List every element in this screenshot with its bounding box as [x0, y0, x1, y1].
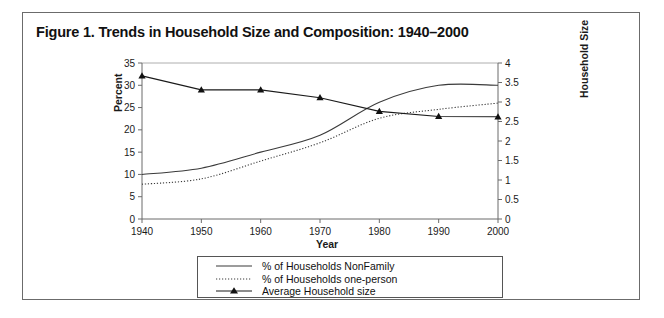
y-left-tick-label: 35 — [124, 58, 136, 69]
y-left-tick-label: 5 — [129, 191, 135, 202]
y-right-tick-label: 3 — [505, 97, 511, 108]
legend-label-household-size: Average Household size — [262, 285, 376, 297]
figure-container: Figure 1. Trends in Household Size and C… — [0, 0, 664, 318]
y-right-tick-label: 1 — [505, 175, 511, 186]
chart-legend: % of Households NonFamily % of Household… — [197, 256, 503, 298]
y-left-tick-label: 10 — [124, 169, 136, 180]
y-left-tick-label: 30 — [124, 80, 136, 91]
y-axis-right-title: Household Size — [578, 20, 590, 98]
dotted-line-key-icon — [212, 273, 256, 285]
y-right-tick-label: 2 — [505, 136, 511, 147]
y-right-tick-label: 0.5 — [505, 194, 519, 205]
series-2 — [142, 103, 498, 184]
data-point-marker — [138, 72, 145, 78]
legend-item-one-person: % of Households one-person — [212, 273, 502, 286]
legend-item-nonfamily: % of Households NonFamily — [212, 260, 502, 273]
series-3 — [138, 72, 501, 119]
y-right-tick-label: 2.5 — [505, 116, 519, 127]
y-right-tick-label: 3.5 — [505, 77, 519, 88]
x-tick-label: 1940 — [131, 226, 154, 237]
x-tick-label: 1960 — [250, 226, 273, 237]
y-left-tick-label: 15 — [124, 147, 136, 158]
y-right-tick-label: 1.5 — [505, 155, 519, 166]
legend-item-household-size: Average Household size — [212, 285, 502, 298]
x-tick-label: 1980 — [368, 226, 391, 237]
chart-canvas: 0510152025303500.511.522.533.54194019501… — [110, 55, 530, 255]
solid-line-key-icon — [212, 260, 256, 272]
y-left-tick-label: 0 — [129, 214, 135, 225]
legend-label-nonfamily: % of Households NonFamily — [262, 260, 394, 272]
series-line — [142, 103, 498, 184]
figure-title: Figure 1. Trends in Household Size and C… — [36, 24, 469, 40]
plot-area: 0510152025303500.511.522.533.54194019501… — [110, 55, 530, 255]
x-tick-label: 1990 — [428, 226, 451, 237]
y-left-tick-label: 25 — [124, 102, 136, 113]
triangle-marker-key-icon — [212, 285, 256, 297]
x-tick-label: 1950 — [190, 226, 213, 237]
y-left-tick-label: 20 — [124, 124, 136, 135]
y-axis-left-title: Percent — [112, 73, 124, 112]
y-right-tick-label: 4 — [505, 58, 511, 69]
legend-label-one-person: % of Households one-person — [262, 273, 397, 285]
y-right-tick-label: 0 — [505, 214, 511, 225]
x-tick-label: 2000 — [487, 226, 510, 237]
x-tick-label: 1970 — [309, 226, 332, 237]
x-axis-title: Year — [316, 238, 338, 250]
